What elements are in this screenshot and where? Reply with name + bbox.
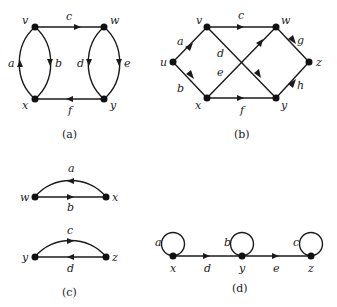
arrow-icon <box>66 96 73 102</box>
arrow-icon <box>67 178 74 184</box>
edge-c-c <box>35 241 106 258</box>
edge-label: f <box>67 104 74 117</box>
edge-label: c <box>238 9 244 22</box>
vertex-a-y <box>101 96 108 103</box>
vertex-d-y <box>239 253 246 260</box>
edge-label: b <box>177 82 184 95</box>
edge-label: d <box>204 262 211 275</box>
vertex-c-y <box>32 254 39 261</box>
arrow-icon <box>288 35 296 44</box>
vertex-b-x <box>204 95 211 102</box>
vertex-label: w <box>20 191 30 204</box>
vertex-b-v <box>204 24 211 31</box>
edge-label: b <box>67 201 74 214</box>
arrow-icon <box>203 253 210 259</box>
vertex-a-x <box>32 96 39 103</box>
vertex-c-w <box>32 194 39 201</box>
loop-d-a <box>162 233 185 256</box>
vertex-label: x <box>195 99 202 112</box>
digraph-figure: v w x y c a b d e f (a) <box>0 0 337 307</box>
vertex-label: x <box>112 191 119 204</box>
caption-c: (c) <box>62 286 77 299</box>
graph-a: v w x y c a b d e f (a) <box>8 10 131 141</box>
caption-b: (b) <box>234 128 250 141</box>
edge-label: c <box>66 10 72 23</box>
vertex-label: v <box>22 14 29 27</box>
vertex-a-v <box>32 24 39 31</box>
edge-label: c <box>293 236 299 249</box>
vertex-a-w <box>101 24 108 31</box>
arrow-icon <box>86 59 92 66</box>
arrow-icon <box>67 238 74 244</box>
edge-label: b <box>55 57 62 70</box>
vertex-label: v <box>196 14 203 27</box>
loop-d-c <box>300 233 323 256</box>
vertex-d-x <box>170 253 177 260</box>
edge-label: a <box>155 236 162 249</box>
caption-d: (d) <box>232 282 248 295</box>
vertex-label: z <box>111 251 118 264</box>
edge-a-d <box>88 27 104 99</box>
loop-d-b <box>231 233 254 256</box>
edge-label: b <box>224 236 231 249</box>
edge-label: e <box>273 262 280 275</box>
vertex-b-z <box>306 59 313 66</box>
vertex-label: y <box>109 99 117 112</box>
arrow-icon <box>272 253 279 259</box>
graph-b: u v w x y z a b c d e f g h (b) <box>160 9 322 141</box>
edge-label: d <box>77 57 84 70</box>
edge-label: a <box>8 57 15 70</box>
arrow-icon <box>67 194 74 200</box>
edge-label: h <box>297 79 304 92</box>
edge-label: f <box>239 104 246 117</box>
vertex-label: y <box>21 251 29 264</box>
arrow-icon <box>17 60 23 67</box>
edge-a-b <box>35 27 51 99</box>
edge-label: c <box>67 224 73 237</box>
vertex-label: u <box>160 56 167 69</box>
graph-d: x y z a b c d e (d) <box>155 233 323 296</box>
edge-label: d <box>67 262 74 275</box>
edge-label: g <box>297 34 304 47</box>
caption-a: (a) <box>62 128 77 141</box>
vertex-label: z <box>315 56 322 69</box>
vertex-d-z <box>308 253 315 260</box>
edge-label: a <box>177 35 184 48</box>
vertex-label: w <box>110 14 120 27</box>
vertex-c-z <box>103 254 110 261</box>
arrow-icon <box>47 59 53 66</box>
arrow-icon <box>185 43 193 51</box>
vertex-b-y <box>273 95 280 102</box>
graph-c: w x a b y z c d (c) <box>20 162 119 299</box>
edge-a-a <box>19 27 35 99</box>
vertex-label: x <box>170 262 177 275</box>
vertex-label: z <box>307 262 314 275</box>
vertex-label: y <box>238 262 246 275</box>
edge-a-e <box>104 27 120 99</box>
vertex-b-u <box>170 59 177 66</box>
edge-c-a <box>35 181 106 198</box>
edge-label: d <box>217 47 224 60</box>
vertex-label: y <box>280 99 288 112</box>
arrow-icon <box>67 254 74 260</box>
edge-b-g <box>276 27 309 62</box>
arrow-icon <box>237 24 244 30</box>
vertex-b-w <box>273 24 280 31</box>
arrow-icon <box>74 24 81 30</box>
edge-label: e <box>124 57 131 70</box>
edge-label: a <box>68 162 75 175</box>
vertex-c-x <box>103 194 110 201</box>
vertex-label: x <box>22 99 29 112</box>
arrow-icon <box>116 59 122 66</box>
arrow-icon <box>237 95 244 101</box>
vertex-label: w <box>281 14 291 27</box>
edge-label: e <box>217 66 224 79</box>
